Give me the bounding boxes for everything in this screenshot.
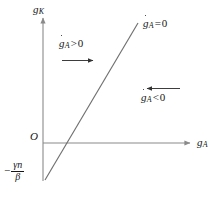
nullcline-label: gA=0 [143, 18, 167, 30]
nullcline-label-subscript: A [149, 21, 154, 30]
y-intercept-label: − γn β [4, 160, 24, 182]
region-positive-base: g [59, 37, 65, 49]
nullcline-label-relation: = [154, 17, 162, 29]
x-axis-label: gA [197, 137, 208, 149]
region-negative-relation: < [152, 91, 160, 103]
x-axis-label-base: g [197, 136, 203, 148]
region-negative-dot-accent: g [141, 92, 147, 103]
phase-diagram-figure [0, 0, 222, 197]
region-label-positive: gA>0 [59, 38, 83, 50]
y-axis-label: gK [33, 4, 44, 16]
y-intercept-minus-sign: − [4, 165, 10, 176]
y-axis-label-base: g [33, 3, 39, 15]
x-axis-label-subscript: A [203, 140, 208, 149]
nullcline-label-base: g [143, 17, 149, 29]
figure-caption [0, 189, 222, 197]
nullcline-label-dot-accent: g [143, 18, 149, 29]
region-negative-base: g [141, 91, 147, 103]
region-positive-relation: > [70, 37, 78, 49]
y-intercept-denominator: β [14, 172, 21, 183]
y-axis-label-subscript: K [39, 7, 45, 16]
origin-label: O [30, 131, 38, 142]
y-intercept-numerator: γn [12, 160, 23, 171]
region-label-negative: gA<0 [141, 92, 165, 104]
y-intercept-fraction: γn β [11, 160, 24, 182]
nullcline-label-value: 0 [162, 17, 168, 29]
region-positive-dot-accent: g [59, 38, 65, 49]
region-positive-value: 0 [78, 37, 84, 49]
region-negative-subscript: A [147, 95, 152, 104]
region-negative-value: 0 [160, 91, 166, 103]
region-positive-subscript: A [65, 41, 70, 50]
